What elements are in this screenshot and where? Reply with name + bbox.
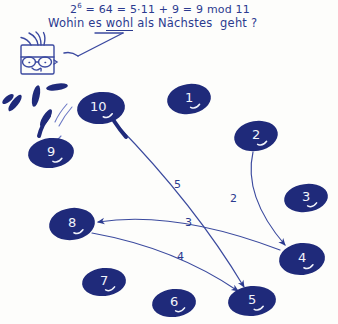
edge-label-2-to-4: 2 (230, 192, 237, 205)
edge-label-10-to-5: 5 (174, 178, 181, 191)
edge-label-4-to-8: 3 (185, 216, 192, 229)
graph-node-7[interactable] (81, 266, 128, 298)
edge-label-8-to-5: 4 (177, 250, 184, 263)
node-10-stem (114, 121, 126, 137)
node-layer (0, 0, 338, 324)
graph-node-6[interactable] (151, 287, 198, 319)
graph-node-5[interactable] (227, 284, 277, 318)
graph-node-3[interactable] (282, 181, 329, 215)
graph-node-1[interactable] (165, 81, 213, 117)
graph-node-9[interactable] (27, 136, 76, 171)
graph-node-4[interactable] (277, 241, 326, 278)
graph-node-8[interactable] (47, 205, 97, 243)
graph-node-2[interactable] (232, 117, 281, 154)
graph-node-10[interactable] (75, 90, 126, 127)
handwritten-diagram-canvas: 26 = 64 = 5·11 + 9 = 9 mod 11 Wohin es w… (0, 0, 338, 324)
node-9-stem (39, 116, 49, 136)
